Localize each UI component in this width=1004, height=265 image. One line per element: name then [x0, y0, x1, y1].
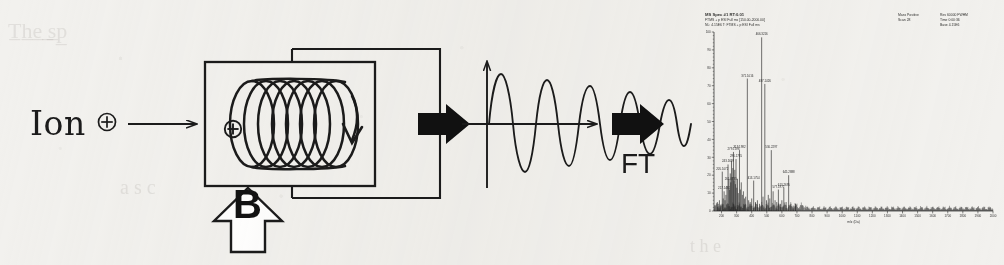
- svg-text:40: 40: [707, 138, 711, 142]
- magnetic-field-label: B: [233, 182, 262, 227]
- svg-text:70: 70: [707, 84, 711, 88]
- svg-text:300: 300: [734, 214, 739, 218]
- svg-text:50: 50: [707, 120, 711, 124]
- svg-text:20: 20: [707, 173, 711, 177]
- svg-text:487.1426: 487.1426: [759, 79, 771, 83]
- svg-text:10: 10: [707, 191, 711, 195]
- svg-text:1400: 1400: [899, 214, 906, 218]
- svg-text:30: 30: [707, 156, 711, 160]
- svg-text:205.1072: 205.1072: [716, 167, 728, 171]
- svg-text:466.3216: 466.3216: [756, 32, 768, 36]
- svg-text:600: 600: [779, 214, 784, 218]
- svg-text:413.1754: 413.1754: [748, 176, 760, 180]
- svg-text:645.2888: 645.2888: [783, 170, 795, 174]
- svg-text:1600: 1600: [929, 214, 936, 218]
- svg-text:80: 80: [707, 66, 711, 70]
- ion-charge-symbol: [99, 114, 116, 131]
- svg-text:400: 400: [749, 214, 754, 218]
- svg-text:1200: 1200: [869, 214, 876, 218]
- fourier-transform-label: FT: [621, 148, 655, 180]
- svg-text:1300: 1300: [884, 214, 891, 218]
- svg-text:319.1982: 319.1982: [733, 145, 745, 149]
- svg-text:1500: 1500: [914, 214, 921, 218]
- svg-text:530.2297: 530.2297: [765, 145, 777, 149]
- svg-text:0: 0: [709, 209, 711, 213]
- svg-text:371.1016: 371.1016: [741, 74, 753, 78]
- spectrum-plot: 0102030405060708090100200300400500600700…: [700, 6, 1000, 244]
- svg-text:261.0735: 261.0735: [725, 177, 737, 181]
- svg-text:296.1735: 296.1735: [730, 154, 742, 158]
- svg-text:217.1461: 217.1461: [718, 186, 730, 190]
- figure-canvas: T̲h̲e̲ ̲s̲p̲ a s c t h e: [0, 0, 1004, 265]
- svg-text:60: 60: [707, 102, 711, 106]
- svg-text:613.2695: 613.2695: [778, 183, 790, 187]
- svg-text:m/z (Da): m/z (Da): [847, 220, 860, 224]
- svg-text:90: 90: [707, 48, 711, 52]
- svg-text:700: 700: [794, 214, 799, 218]
- svg-text:1900: 1900: [975, 214, 982, 218]
- svg-text:500: 500: [764, 214, 769, 218]
- svg-text:1800: 1800: [959, 214, 966, 218]
- svg-text:243.1699: 243.1699: [722, 159, 734, 163]
- mass-spectrum-panel: MS Spec #1 RT:0.01 FTMS + p ESI Full ms …: [700, 6, 1000, 244]
- svg-text:1100: 1100: [854, 214, 861, 218]
- svg-text:200: 200: [719, 214, 724, 218]
- svg-text:1700: 1700: [944, 214, 951, 218]
- svg-text:900: 900: [825, 214, 830, 218]
- svg-text:1000: 1000: [839, 214, 846, 218]
- svg-text:100: 100: [706, 30, 711, 34]
- svg-text:2000: 2000: [990, 214, 997, 218]
- svg-text:800: 800: [810, 214, 815, 218]
